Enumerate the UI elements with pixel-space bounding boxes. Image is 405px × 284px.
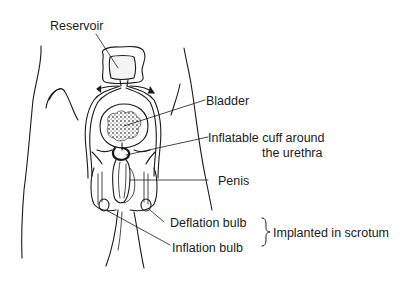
thigh-curve-left [49,89,78,120]
penis-shaft [113,160,130,203]
body-outline-right [184,48,212,210]
reservoir-inner [109,56,135,80]
body-outline-left [22,46,42,258]
label-penis: Penis [218,174,249,188]
label-deflation-bulb: Deflation bulb [170,216,246,230]
tube-side-left [92,150,112,164]
label-cuff-line1: Inflatable cuff around [208,131,325,145]
leader-deflation [150,210,164,222]
label-bladder: Bladder [206,94,249,108]
leg-left [106,210,118,266]
label-reservoir: Reservoir [50,19,104,33]
brace [262,218,270,246]
label-implanted-in-scrotum: Implanted in scrotum [273,226,389,240]
inflation-bulb [99,199,109,211]
label-inflation-bulb: Inflation bulb [172,241,243,255]
leader-bladder [124,100,205,126]
leader-reservoir [96,34,118,68]
leader-cuff [126,137,208,155]
label-cuff-line2: the urethra [262,146,322,160]
penis-corpus [119,162,127,198]
diagram-canvas: Reservoir Bladder Inflatable cuff around… [0,0,405,284]
cuff [113,148,129,160]
arrowhead-left [97,86,101,92]
tube-side-right [134,150,155,164]
hip-curve-left [46,89,60,108]
leg-right [134,212,144,268]
scrotum-outline [91,168,157,211]
